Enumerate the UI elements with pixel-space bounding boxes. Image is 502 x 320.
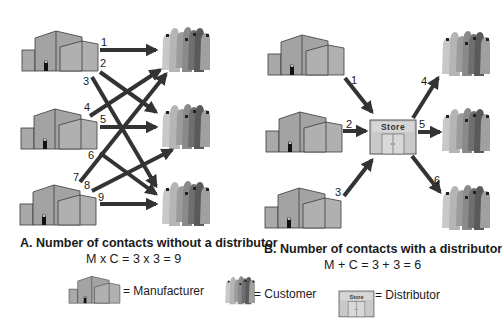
svg-text:4: 4 [84, 101, 90, 113]
svg-text:6: 6 [88, 149, 94, 161]
manufacturer-icon [20, 185, 96, 225]
manufacturer-icon [265, 188, 341, 228]
svg-text:3: 3 [83, 75, 89, 87]
svg-text:2: 2 [346, 118, 352, 130]
manufacturer-icon [266, 112, 342, 152]
panel-a: 1 2 3 4 5 6 7 8 9 [20, 27, 210, 226]
distributor-legend-icon-label: Store [349, 294, 363, 300]
svg-text:2: 2 [100, 57, 106, 69]
panel-b-equation: M + C = 3 + 3 = 6 [324, 258, 421, 272]
store-label: Store [381, 122, 405, 132]
svg-text:5: 5 [419, 118, 425, 130]
svg-text:4: 4 [421, 75, 427, 87]
customer-icon [442, 185, 490, 230]
panel-a-equation: M x C = 3 x 3 = 9 [86, 252, 181, 266]
customer-icon [162, 181, 210, 226]
svg-text:8: 8 [84, 179, 90, 191]
svg-text:6: 6 [434, 174, 440, 186]
panel-a-title: A. Number of contacts without a distribu… [20, 236, 278, 250]
customer-legend-icon [225, 276, 255, 304]
manufacturer-legend-icon [69, 276, 120, 303]
panel-b: Store 1 2 3 4 5 6 [265, 31, 490, 230]
customer-icon [442, 108, 490, 153]
manufacturer-icon [22, 31, 98, 71]
legend-customer: = Customer [254, 287, 316, 301]
panel-b-title: B. Number of contacts with a distributor [264, 242, 502, 256]
svg-text:3: 3 [335, 186, 341, 198]
svg-text:5: 5 [100, 113, 106, 125]
customer-icon [162, 27, 210, 72]
svg-text:1: 1 [101, 36, 107, 48]
svg-text:9: 9 [98, 191, 104, 203]
svg-text:7: 7 [73, 171, 79, 183]
legend-distributor: = Distributor [375, 288, 440, 302]
legend-manufacturer: = Manufacturer [123, 284, 204, 298]
legend-icons: Store [69, 276, 374, 317]
customer-icon [162, 104, 210, 149]
customer-icon [442, 31, 490, 76]
manufacturer-icon [268, 35, 344, 75]
svg-text:1: 1 [351, 74, 357, 86]
manufacturer-icon [21, 109, 97, 149]
